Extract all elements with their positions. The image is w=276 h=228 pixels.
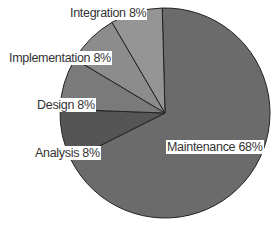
label-maintenance: Maintenance 68%	[166, 140, 264, 154]
label-implementation: Implementation 8%	[8, 51, 112, 65]
pie-chart	[0, 0, 276, 228]
label-integration: Integration 8%	[69, 6, 147, 20]
label-analysis: Analysis 8%	[34, 146, 101, 160]
label-design: Design 8%	[36, 98, 96, 112]
